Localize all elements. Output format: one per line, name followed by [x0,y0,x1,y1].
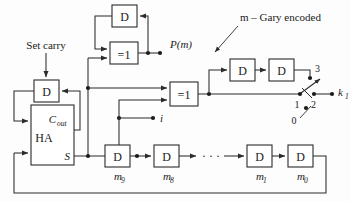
switch-cross-stroke [302,88,312,98]
d-flipflop-carry: D [34,80,59,102]
switch-contact-1-label: 1 [295,99,300,110]
junction-m9-out [135,154,139,158]
d-flipflop-carry-label: D [42,85,51,99]
d-flipflop-m1: D m 1 [247,145,272,185]
d-flipflop-top: D [112,5,137,27]
d-flipflop-m1-label: D [255,150,264,164]
set-carry-label: Set carry [26,39,66,51]
shift-register-ellipsis: · · · [202,149,220,163]
xor-gate-right-label: =1 [178,88,191,102]
wire-xor-to-dtop [140,16,148,53]
d-flipflop-m8-label: D [162,150,171,164]
m9-tag-sub: 9 [121,176,125,185]
half-adder-sum-label: S [65,150,71,162]
wire-gray-d2-to-contact3 [294,70,310,76]
p-of-m-label: P(m) [169,38,192,51]
d-flipflop-top-label: D [120,10,129,24]
d-flipflop-m9-label: D [113,150,122,164]
figure-block-diagram: D =1 Set carry D C out [0,0,351,202]
k-output-sub: 1 [345,92,349,101]
gray-encoded-label: m – Gary encoded [240,11,321,23]
xor-gate-left: =1 [110,42,138,64]
half-adder-cout-sub: out [57,119,68,128]
gray-encoded-pointer [215,26,238,52]
terminal-k1 [330,92,334,96]
d-flipflop-gray-1-label: D [238,64,247,78]
m8-tag-sub: 8 [170,176,174,185]
m0-tag-sub: 0 [304,176,308,185]
d-flipflop-gray-2-label: D [277,64,286,78]
xor-gate-right: =1 [170,82,198,106]
switch-contact-0-label: 0 [292,115,297,126]
d-flipflop-m0: D m 0 [288,145,313,185]
terminal-pm-tap [158,51,162,55]
half-adder-cout-label: C [49,113,57,125]
d-flipflop-gray-2: D [269,59,294,81]
half-adder-label: HA [35,131,53,145]
switch-contact-3-label: 3 [315,63,320,74]
output-selector-switch[interactable] [300,79,334,118]
i-signal-label: i [160,112,163,124]
diagram-canvas: D =1 Set carry D C out [0,0,351,202]
wire-xor-to-gray-d1 [209,70,227,94]
terminal-i [151,116,155,120]
d-flipflop-m9: D m 9 [105,145,130,185]
d-flipflop-m0-label: D [296,150,305,164]
half-adder-block: C out HA S [31,105,74,165]
m1-tag-sub: 1 [263,176,267,185]
d-flipflop-gray-1: D [230,59,255,81]
d-flipflop-m8: D m 8 [154,145,179,185]
xor-gate-left-label: =1 [118,48,131,62]
switch-wiper[interactable] [301,79,320,93]
wire-dtop-to-xor-in1 [95,16,112,49]
k-output-label: k [338,86,344,98]
switch-contact-3 [308,76,312,80]
switch-contact-2-label: 2 [311,99,316,110]
